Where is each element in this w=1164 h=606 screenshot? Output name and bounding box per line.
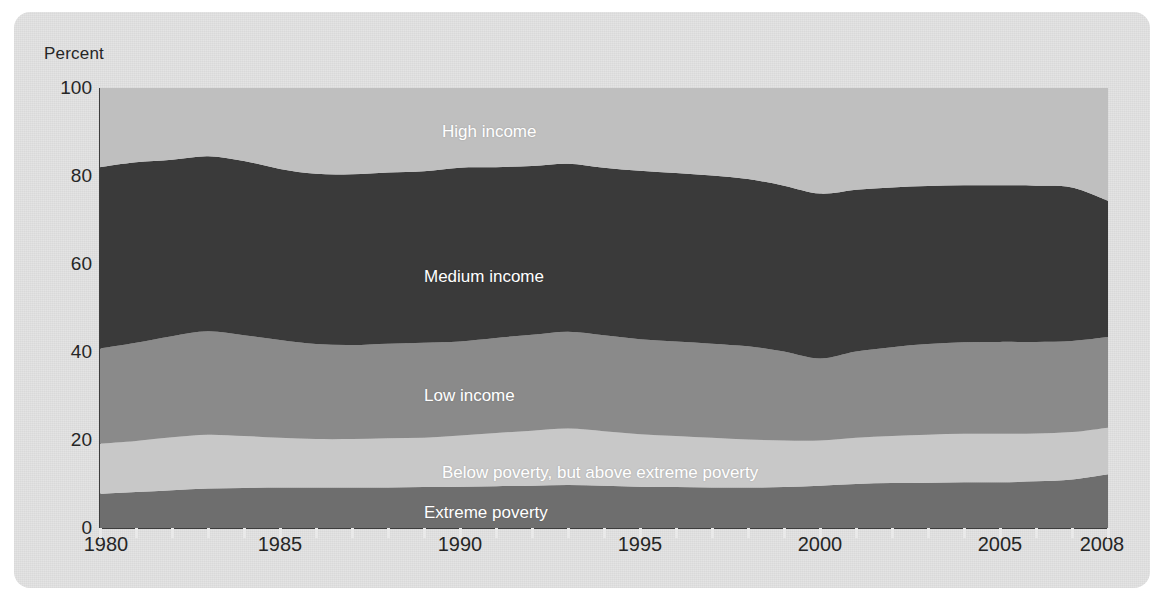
- x-minor-tick: [459, 528, 462, 538]
- x-minor-tick: [567, 528, 570, 538]
- x-minor-tick: [351, 528, 354, 538]
- x-minor-tick: [855, 528, 858, 538]
- x-minor-tick: [891, 528, 894, 538]
- x-minor-tick: [747, 528, 750, 538]
- y-tick-label: 40: [32, 341, 92, 363]
- x-minor-tick: [423, 528, 426, 538]
- x-minor-tick: [963, 528, 966, 538]
- x-minor-tick: [675, 528, 678, 538]
- chart-figure: Percent 020406080100 Extreme povertyBelo…: [0, 0, 1164, 606]
- x-minor-tick: [1071, 528, 1074, 538]
- x-minor-tick: [207, 528, 210, 538]
- y-tick-label: 20: [32, 429, 92, 451]
- x-minor-tick: [711, 528, 714, 538]
- x-minor-tick: [531, 528, 534, 538]
- series-label: Low income: [424, 386, 515, 406]
- series-label: Extreme poverty: [424, 503, 548, 523]
- x-minor-tick: [99, 528, 102, 538]
- x-minor-tick: [783, 528, 786, 538]
- x-minor-tick: [927, 528, 930, 538]
- x-axis-minor-ticks: [100, 528, 1108, 540]
- area-band-low-income: [100, 331, 1108, 443]
- x-minor-tick: [603, 528, 606, 538]
- x-minor-tick: [999, 528, 1002, 538]
- x-minor-tick: [387, 528, 390, 538]
- series-label: Below poverty, but above extreme poverty: [442, 463, 758, 483]
- x-minor-tick: [819, 528, 822, 538]
- x-minor-tick: [1035, 528, 1038, 538]
- y-tick-label: 100: [32, 77, 92, 99]
- y-axis-tick-labels: 020406080100: [22, 0, 92, 606]
- y-tick-label: 80: [32, 165, 92, 187]
- area-band-medium-income: [100, 156, 1108, 358]
- x-minor-tick: [315, 528, 318, 538]
- y-tick-label: 60: [32, 253, 92, 275]
- x-minor-tick: [1107, 528, 1110, 538]
- series-label: High income: [442, 122, 537, 142]
- x-minor-tick: [135, 528, 138, 538]
- x-minor-tick: [639, 528, 642, 538]
- stacked-area-svg: [100, 88, 1108, 528]
- plot-area: Extreme povertyBelow poverty, but above …: [100, 88, 1108, 528]
- x-minor-tick: [495, 528, 498, 538]
- series-label: Medium income: [424, 267, 544, 287]
- x-minor-tick: [243, 528, 246, 538]
- x-minor-tick: [279, 528, 282, 538]
- x-minor-tick: [171, 528, 174, 538]
